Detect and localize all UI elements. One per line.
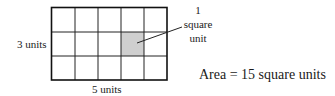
grid-border: [52, 8, 168, 81]
grid-lines: [51, 7, 167, 80]
area-statement: Area = 15 square units: [199, 67, 326, 83]
unit-square-callout: 1 square unit: [181, 3, 215, 45]
callout-line-2: square: [181, 17, 215, 31]
width-label: 5 units: [92, 84, 122, 95]
height-label: 3 units: [17, 39, 47, 50]
callout-line-1: 1: [181, 3, 215, 17]
area-diagram: 3 units 5 units 1 square unit Area = 15 …: [0, 0, 335, 96]
shaded-unit-square: [121, 32, 144, 56]
callout-line-3: unit: [181, 31, 215, 45]
